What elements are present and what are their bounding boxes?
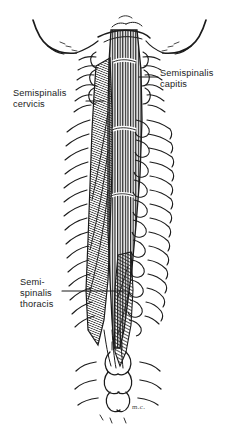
semispinalis-illustration <box>0 0 239 429</box>
anatomy-figure-page: Semispinalis cervicis Semispinalis capit… <box>0 0 239 429</box>
label-semispinalis-thoracis: Semi- spinalis thoracis <box>20 277 53 311</box>
label-semispinalis-cervicis: Semispinalis cervicis <box>13 88 66 110</box>
artist-signature: m.c. <box>132 403 145 411</box>
label-semispinalis-capitis: Semispinalis capitis <box>160 68 213 90</box>
